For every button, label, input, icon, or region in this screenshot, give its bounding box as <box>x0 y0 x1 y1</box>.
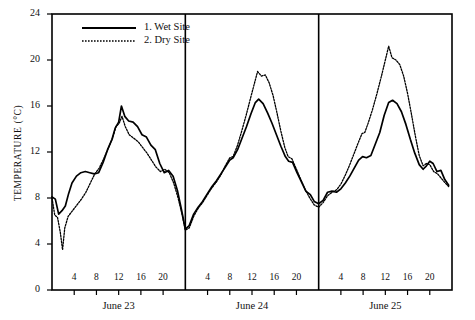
data-series-line <box>52 99 449 229</box>
legend-item-label: 2. Dry Site <box>144 34 190 45</box>
data-series-line <box>52 46 449 250</box>
plot-area <box>0 0 475 320</box>
legend-item-label: 1. Wet Site <box>144 21 190 32</box>
temperature-chart-figure: TEMPERATURE (°C) 0481216202448121620June… <box>0 0 475 320</box>
